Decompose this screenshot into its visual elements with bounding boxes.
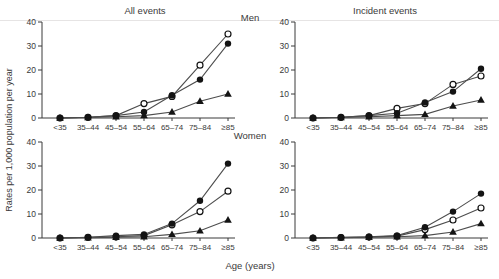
chart-panel-incident-events-men: 010203040<3535–4445–5455–6465–7475–84≥85	[275, 14, 499, 136]
open-circle-marker	[450, 217, 456, 223]
y-tick-label: 0	[31, 113, 36, 123]
x-tick-label: 45–54	[105, 123, 128, 132]
y-axis-label: Rates per 1,000 population per year	[4, 68, 14, 212]
filled-circle-marker	[422, 224, 428, 230]
y-tick-label: 40	[27, 17, 37, 27]
x-tick-label: ≥85	[474, 123, 488, 132]
x-tick-label: 55–64	[386, 243, 409, 252]
x-tick-label: 35–44	[77, 123, 100, 132]
y-tick-label: 20	[27, 185, 37, 195]
open-circle-marker	[450, 81, 456, 87]
x-tick-label: <35	[53, 243, 67, 252]
x-tick-label: 75–84	[189, 243, 212, 252]
filled-circle-marker	[225, 40, 231, 46]
filled-triangle-marker	[224, 90, 232, 97]
y-tick-label: 40	[280, 17, 290, 27]
y-tick-label: 20	[27, 65, 37, 75]
x-tick-label: 65–74	[414, 123, 437, 132]
x-tick-label: ≥85	[221, 123, 235, 132]
filled-circle-marker	[225, 160, 231, 166]
x-tick-label: <35	[53, 123, 67, 132]
y-tick-label: 40	[27, 137, 37, 147]
open-circle-marker	[197, 209, 203, 215]
x-tick-label: 35–44	[330, 243, 353, 252]
x-tick-label: ≥85	[221, 243, 235, 252]
x-tick-label: 45–54	[105, 243, 128, 252]
figure-root: { "figure": { "ylabel": "Rates per 1,000…	[0, 0, 499, 279]
x-tick-label: ≥85	[474, 243, 488, 252]
y-tick-label: 0	[284, 233, 289, 243]
x-tick-label: 35–44	[77, 243, 100, 252]
filled-circle-marker	[197, 76, 203, 82]
open-circle-series-line	[60, 191, 228, 238]
filled-circle-marker	[169, 92, 175, 98]
x-tick-label: 45–54	[358, 243, 381, 252]
x-tick-label: 65–74	[161, 243, 184, 252]
y-tick-label: 10	[27, 89, 37, 99]
y-tick-label: 20	[280, 65, 290, 75]
x-tick-label: <35	[306, 123, 320, 132]
y-tick-label: 10	[280, 89, 290, 99]
filled-triangle-marker	[224, 216, 232, 223]
open-circle-marker	[225, 31, 231, 37]
filled-circle-marker	[169, 220, 175, 226]
chart-panel-all-events-women: 010203040<3535–4445–5455–6465–7475–84≥85	[22, 134, 247, 256]
x-tick-label: 75–84	[442, 123, 465, 132]
x-tick-label: 55–64	[386, 123, 409, 132]
x-tick-label: 65–74	[161, 123, 184, 132]
filled-triangle-marker	[477, 96, 485, 103]
filled-circle-marker	[450, 208, 456, 214]
x-tick-label: 55–64	[133, 243, 156, 252]
open-circle-marker	[197, 62, 203, 68]
filled-circle-marker	[197, 198, 203, 204]
x-tick-label: 75–84	[189, 123, 212, 132]
filled-circle-marker	[478, 66, 484, 72]
x-tick-label: 55–64	[133, 123, 156, 132]
y-tick-label: 30	[27, 161, 37, 171]
y-tick-label: 0	[31, 233, 36, 243]
x-axis-label: Age (years)	[225, 260, 274, 271]
x-tick-label: <35	[306, 243, 320, 252]
x-tick-label: 65–74	[414, 243, 437, 252]
open-circle-marker	[141, 101, 147, 107]
open-circle-marker	[478, 73, 484, 79]
y-tick-label: 10	[280, 209, 290, 219]
y-tick-label: 10	[27, 209, 37, 219]
filled-circle-marker	[478, 190, 484, 196]
x-tick-label: 75–84	[442, 243, 465, 252]
y-tick-label: 30	[280, 161, 290, 171]
chart-panel-incident-events-women: 010203040<3535–4445–5455–6465–7475–84≥85	[275, 134, 499, 256]
y-tick-label: 30	[27, 41, 37, 51]
y-tick-label: 30	[280, 41, 290, 51]
chart-panel-all-events-men: 010203040<3535–4445–5455–6465–7475–84≥85	[22, 14, 247, 136]
filled-circle-marker	[450, 88, 456, 94]
x-tick-label: 35–44	[330, 123, 353, 132]
y-tick-label: 0	[284, 113, 289, 123]
y-tick-label: 20	[280, 185, 290, 195]
x-tick-label: 45–54	[358, 123, 381, 132]
y-tick-label: 40	[280, 137, 290, 147]
filled-circle-marker	[422, 99, 428, 105]
filled-triangle-marker	[477, 220, 485, 227]
open-circle-marker	[478, 205, 484, 211]
open-circle-marker	[225, 188, 231, 194]
